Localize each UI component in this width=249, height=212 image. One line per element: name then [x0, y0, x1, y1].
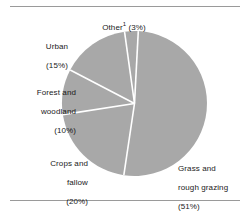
slice-label-crops-line2: fallow	[18, 178, 88, 188]
slice-label-grass-line1: Grass and	[178, 164, 248, 174]
slice-label-forest-line2: woodland	[2, 107, 76, 117]
slice-label-crops-percent: (20%)	[18, 197, 88, 207]
slice-label-other: Other1 (3%)	[84, 13, 164, 32]
slice-label-forest-line1: Forest and	[2, 88, 76, 98]
slice-label-urban: Urban (15%)	[28, 32, 86, 80]
slice-label-grass-percent: (51%)	[178, 202, 248, 212]
slice-label-urban-line1: Urban	[28, 42, 86, 52]
slice-label-crops-line1: Crops and	[18, 159, 88, 169]
slice-label-crops-and-fallow: Crops and fallow (20%)	[18, 149, 88, 212]
slice-label-urban-percent: (15%)	[28, 61, 86, 71]
slice-label-grass-and-rough-grazing: Grass and rough grazing (51%)	[178, 154, 248, 212]
slice-label-forest-percent: (10%)	[2, 126, 76, 136]
slice-label-other-percent: (3%)	[126, 23, 146, 32]
slice-label-other-text: Other	[102, 23, 123, 32]
slice-label-grass-line2: rough grazing	[178, 183, 248, 193]
slice-label-forest-and-woodland: Forest and woodland (10%)	[2, 78, 76, 145]
pie-chart-figure: Other1 (3%) Urban (15%) Forest and woodl…	[0, 0, 249, 212]
